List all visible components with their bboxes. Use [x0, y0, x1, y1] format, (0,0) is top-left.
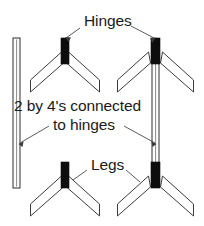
legs-label: Legs: [91, 156, 125, 173]
boards-leader-right: [124, 126, 155, 143]
legs-leader-left: [73, 170, 87, 180]
leg-bottom-right-right-leg: [161, 176, 194, 216]
hinge-bottom-left: [61, 162, 69, 188]
hinges-leader-left: [66, 28, 80, 38]
hinge-bottom-right: [151, 162, 160, 188]
hinges-leader-right: [131, 26, 154, 38]
sawhorse-diagram: Hinges 2 by 4's connected to hinges Legs: [0, 0, 204, 226]
boards-label-line2: to hinges: [53, 116, 115, 133]
leg-top-left-left-leg: [31, 52, 64, 92]
leg-top-right-right-leg: [161, 52, 194, 92]
leg-top-right-left-leg: [118, 52, 151, 92]
leg-assembly-bottom-right: [118, 162, 194, 216]
leg-assembly-top-left: [31, 38, 100, 92]
leg-bottom-left-left-leg: [31, 176, 64, 216]
leg-bottom-right-left-leg: [118, 176, 151, 216]
diagram-canvas: Hinges 2 by 4's connected to hinges Legs: [0, 0, 204, 226]
leg-bottom-left-right-leg: [67, 176, 100, 216]
hinge-top-left: [61, 38, 69, 64]
hinges-label: Hinges: [84, 12, 132, 29]
legs-callout: Legs: [73, 156, 140, 182]
boards-label-line1: 2 by 4's connected: [14, 97, 141, 114]
leg-assembly-bottom-left: [31, 162, 100, 216]
legs-leader-right: [126, 170, 140, 182]
boards-leader-left: [20, 126, 49, 143]
boards-callout: 2 by 4's connected to hinges: [14, 97, 157, 147]
leg-top-left-right-leg: [67, 52, 100, 92]
hinges-callout: Hinges: [65, 12, 156, 43]
